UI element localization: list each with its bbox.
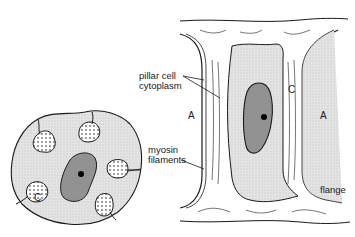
- label-flange: flange: [320, 185, 346, 196]
- pillar-cell-illustration: [0, 0, 355, 237]
- diagram-canvas: pillar cell cytoplasm myosin filaments A…: [0, 0, 355, 237]
- label-pillar-cell-cytoplasm-2: cytoplasm: [139, 81, 182, 92]
- label-channel-right: C: [288, 85, 295, 96]
- label-myosin-filaments-2: filaments: [148, 155, 186, 166]
- cross-section-cell: [11, 111, 141, 225]
- label-channel-left: C: [34, 193, 41, 204]
- label-space-a-left: A: [188, 111, 195, 122]
- label-space-a-right: A: [320, 111, 327, 122]
